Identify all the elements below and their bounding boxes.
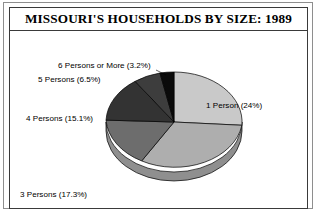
- pie-slice-1-person: [174, 72, 242, 125]
- slice-label-1-person: 1 Person (24%): [206, 102, 262, 110]
- page-title: MISSOURI'S HOUSEHOLDS BY SIZE: 1989: [25, 11, 292, 27]
- pie-slices: [106, 72, 242, 167]
- slice-label-3-persons: 3 Persons (17.3%): [20, 191, 87, 199]
- chart-title-box: MISSOURI'S HOUSEHOLDS BY SIZE: 1989: [9, 7, 308, 31]
- slice-label-4-persons: 4 Persons (15.1%): [26, 115, 93, 123]
- pie-chart-figure: MISSOURI'S HOUSEHOLDS BY SIZE: 1989: [0, 0, 317, 220]
- slice-label-5-persons: 5 Persons (6.5%): [38, 76, 101, 84]
- slice-label-6-persons-or-more: 6 Persons or More (3.2%): [58, 62, 151, 70]
- plot-area: 6 Persons or More (3.2%) 5 Persons (6.5%…: [10, 31, 307, 208]
